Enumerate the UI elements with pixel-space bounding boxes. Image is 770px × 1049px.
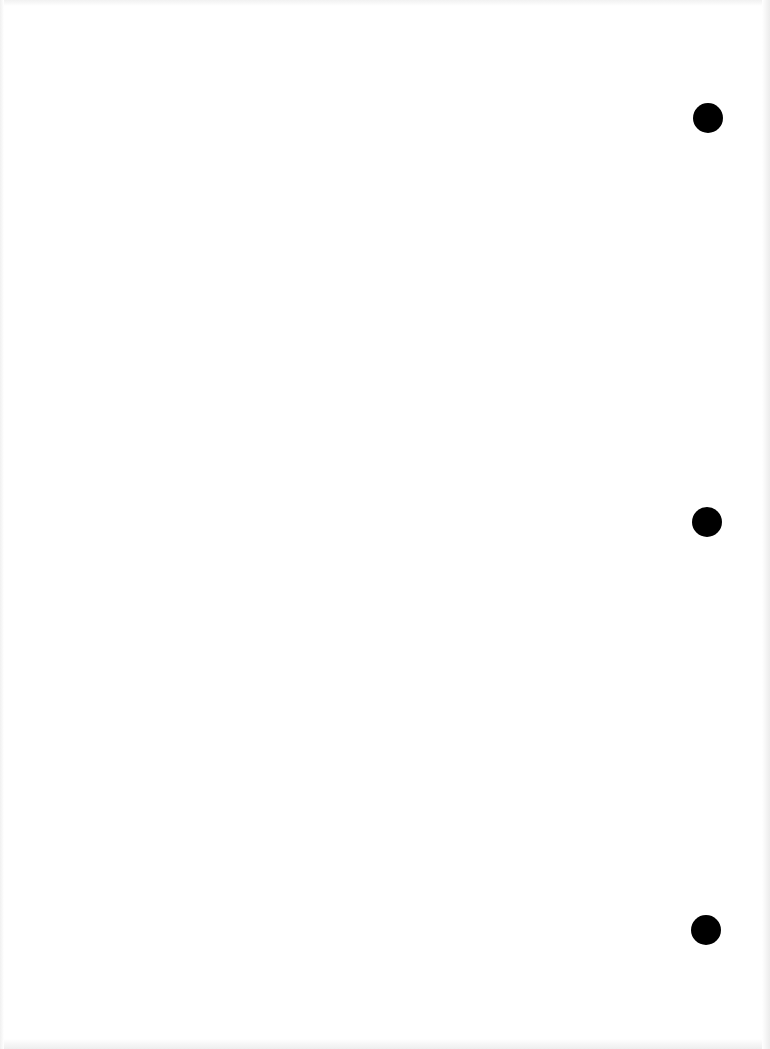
page-edge-right [762, 0, 770, 1049]
page-edge-top [0, 0, 770, 6]
blank-document-page [0, 0, 770, 1049]
punch-hole-middle [692, 507, 722, 537]
punch-hole-top [693, 103, 723, 133]
page-edge-left [0, 0, 4, 1049]
page-edge-bottom [0, 1039, 770, 1049]
punch-hole-bottom [691, 915, 721, 945]
